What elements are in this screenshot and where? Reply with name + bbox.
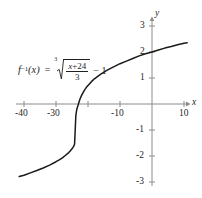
y-axis-label: y	[155, 9, 159, 19]
graph-figure: -40 -30 -10 10 3 2 1 -1 -2 -3 x y f−1(x)…	[0, 0, 202, 198]
equation-root-index: 3	[54, 56, 57, 62]
equation-inverse-exponent: −1	[21, 66, 28, 73]
x-tick-label-10: 10	[179, 109, 189, 119]
equation-cube-root: 3 x+24 3	[54, 58, 90, 82]
x-axis-arrow-icon	[186, 102, 191, 107]
y-tick-label-2: 2	[140, 47, 145, 57]
y-tick-label-3: 3	[140, 21, 145, 31]
equation-equals-sign: =	[45, 65, 51, 75]
x-tick-label-minus30: -30	[47, 109, 60, 119]
x-tick-label-minus40: -40	[15, 109, 28, 119]
equation-trailing-term: − 1	[93, 63, 106, 76]
y-axis-arrow-icon	[150, 17, 155, 22]
x-axis-label: x	[192, 98, 196, 108]
y-tick-label-minus2: -2	[136, 151, 144, 161]
plot-area	[0, 0, 202, 198]
equation-numerator-constant: 24	[77, 61, 86, 71]
equation-annotation: f−1(x) = 3 x+24 3 − 1	[18, 58, 107, 82]
equation-fraction-denominator: 3	[73, 72, 82, 82]
y-tick-label-1: 1	[140, 73, 145, 83]
equation-fraction: x+24 3	[66, 61, 88, 82]
equation-fraction-numerator: x+24	[66, 61, 88, 72]
equation-argument: (x)	[28, 65, 40, 76]
x-tick-label-minus10: -10	[111, 109, 124, 119]
y-tick-label-minus1: -1	[136, 125, 144, 135]
y-tick-label-minus3: -3	[136, 177, 144, 187]
equation-radicand: x+24 3	[63, 59, 90, 82]
